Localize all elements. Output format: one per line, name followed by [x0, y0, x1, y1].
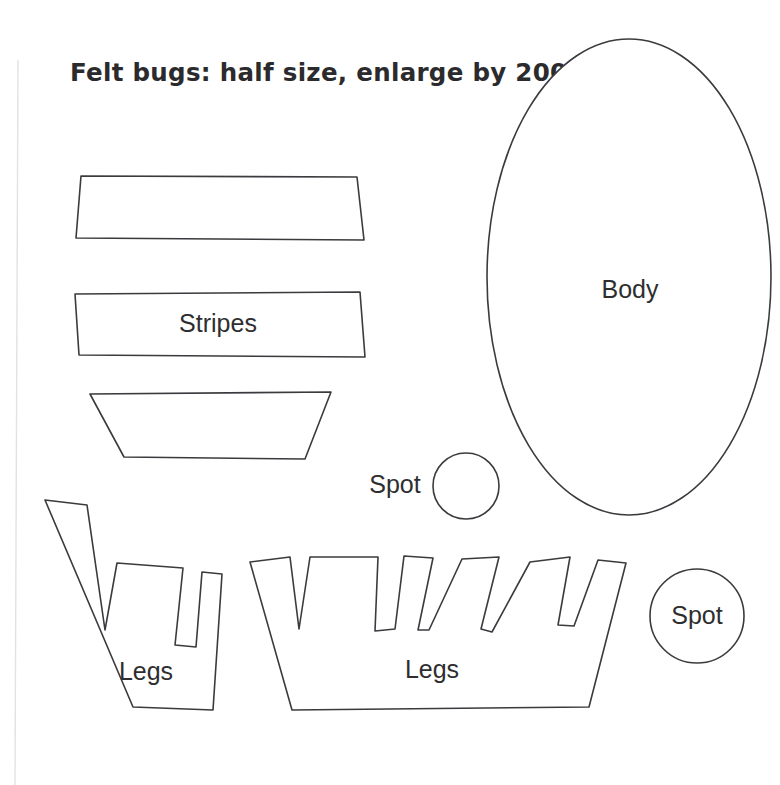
- legs-left-label: Legs: [119, 657, 173, 685]
- stripe-piece-bottom: [90, 392, 331, 459]
- stripes-label: Stripes: [179, 309, 257, 337]
- pattern-sheet: Felt bugs: half size, enlarge by 200% St…: [0, 0, 780, 785]
- legs-piece-right: [250, 556, 626, 710]
- pattern-drawing: Stripes Body Spot Spot Legs Legs: [0, 0, 780, 785]
- spot-piece-small: [433, 453, 499, 519]
- legs-right-label: Legs: [405, 655, 459, 683]
- stripe-piece-top: [76, 176, 364, 240]
- spot-small-label: Spot: [369, 470, 420, 498]
- spot-large-label: Spot: [671, 601, 722, 629]
- body-label: Body: [602, 275, 659, 303]
- page-edge-line: [15, 60, 18, 785]
